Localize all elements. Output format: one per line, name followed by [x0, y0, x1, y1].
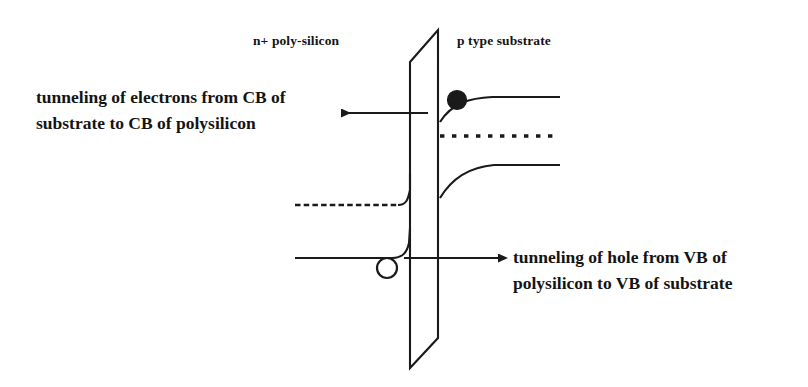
oxide-barrier-group	[410, 30, 438, 368]
right-region-label: p type substrate	[457, 32, 551, 50]
right-bands-group	[440, 91, 560, 199]
oxide-barrier-outline	[410, 30, 438, 368]
left-bands-group	[295, 173, 410, 278]
electron-dot	[448, 91, 467, 110]
tunneling-arrows-group	[341, 113, 498, 258]
band-diagram-canvas	[0, 0, 808, 387]
hole-tunneling-annotation-line2: polysilicon to VB of substrate	[513, 272, 732, 295]
left-region-label: n+ poly-silicon	[253, 32, 339, 50]
right-valence-band-line	[440, 165, 560, 198]
electron-tunneling-annotation-line2: substrate to CB of polysilicon	[36, 112, 256, 135]
hole-circle	[377, 258, 397, 278]
band-diagram-figure: n+ poly-silicon p type substrate tunneli…	[0, 0, 808, 387]
left-conduction-band-bend	[398, 173, 410, 205]
hole-tunneling-annotation-line1: tunneling of hole from VB of	[513, 246, 727, 269]
electron-tunneling-annotation-line1: tunneling of electrons from CB of	[36, 86, 286, 109]
left-valence-band-bend	[392, 228, 410, 258]
